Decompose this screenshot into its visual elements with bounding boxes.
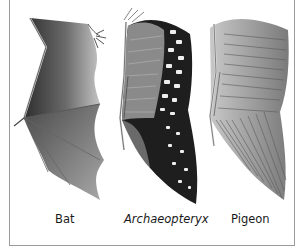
label-bat: Bat — [55, 212, 74, 226]
archaeopteryx-wing-illustration — [110, 0, 202, 210]
bat-wing-icon — [0, 0, 110, 210]
label-archaeopteryx: Archaeopteryx — [124, 212, 209, 226]
bat-wing-illustration — [0, 0, 110, 210]
label-pigeon: Pigeon — [231, 212, 270, 226]
pigeon-wing-icon — [200, 0, 295, 210]
archaeopteryx-wing-icon — [110, 0, 202, 210]
pigeon-wing-illustration — [200, 0, 295, 210]
